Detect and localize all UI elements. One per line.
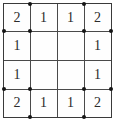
puzzle-cell-r2c1[interactable]	[30, 60, 57, 89]
puzzle-cell-r3c2[interactable]: 1	[57, 89, 84, 117]
puzzle-cell-value: 1	[14, 39, 21, 53]
puzzle-cell-value: 1	[40, 11, 47, 25]
puzzle-cell-value: 2	[14, 11, 21, 25]
puzzle-cell-r2c3[interactable]: 1	[84, 60, 111, 89]
puzzle-cell-value: 1	[94, 68, 101, 82]
puzzle-cell-r0c3[interactable]: 2	[84, 4, 111, 31]
puzzle-cell-r1c2[interactable]	[57, 31, 84, 60]
puzzle-cell-value: 2	[94, 11, 101, 25]
puzzle-cell-value: 1	[40, 96, 47, 110]
puzzle-root: 211211112112	[0, 0, 116, 125]
puzzle-cell-r1c1[interactable]	[30, 31, 57, 60]
puzzle-cell-r3c3[interactable]: 2	[84, 89, 111, 117]
puzzle-cell-value: 1	[14, 68, 21, 82]
puzzle-cell-r2c0[interactable]: 1	[4, 60, 30, 89]
vertex-dot-icon[interactable]	[28, 2, 32, 6]
vertex-dot-icon[interactable]	[2, 29, 6, 33]
puzzle-cell-r3c1[interactable]: 1	[30, 89, 57, 117]
puzzle-cell-value: 1	[94, 39, 101, 53]
puzzle-cell-r0c1[interactable]: 1	[30, 4, 57, 31]
vertex-dot-icon[interactable]	[28, 115, 32, 119]
puzzle-cell-r1c0[interactable]: 1	[4, 31, 30, 60]
puzzle-cell-r2c2[interactable]	[57, 60, 84, 89]
vertex-dot-icon[interactable]	[109, 29, 113, 33]
puzzle-cell-value: 2	[14, 96, 21, 110]
puzzle-cell-r1c3[interactable]: 1	[84, 31, 111, 60]
puzzle-cell-r0c2[interactable]: 1	[57, 4, 84, 31]
puzzle-cell-r0c0[interactable]: 2	[4, 4, 30, 31]
puzzle-grid-frame: 211211112112	[3, 3, 112, 118]
vertex-dot-icon[interactable]	[82, 87, 86, 91]
puzzle-cell-r3c0[interactable]: 2	[4, 89, 30, 117]
puzzle-cell-value: 2	[94, 96, 101, 110]
puzzle-cell-value: 1	[67, 96, 74, 110]
puzzle-cell-value: 1	[67, 11, 74, 25]
